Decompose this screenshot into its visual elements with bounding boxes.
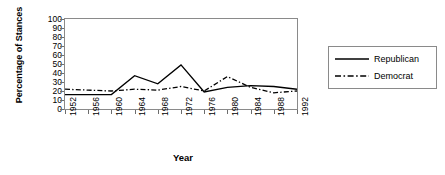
y-axis-tick-labels: 1009080706050403020100 (38, 14, 62, 110)
legend-label: Republican (374, 55, 419, 64)
y-tick-mark (60, 64, 64, 65)
x-axis-title: Year (113, 152, 253, 163)
x-tick-label: 1984 (254, 97, 263, 116)
y-axis-title: Percentage of Stances (14, 0, 24, 115)
x-tick-label: 1960 (115, 97, 124, 116)
plot-lines (65, 19, 297, 109)
x-tick-mark (297, 110, 298, 114)
y-tick-mark (60, 91, 64, 92)
legend-label: Democrat (374, 72, 413, 81)
x-tick-label: 1956 (92, 97, 101, 116)
x-tick-mark (88, 110, 89, 114)
y-tick-mark (60, 55, 64, 56)
x-tick-mark (65, 110, 66, 114)
legend-swatch-dashdot-icon (335, 72, 369, 80)
x-tick-label: 1964 (138, 97, 147, 116)
x-tick-mark (181, 110, 182, 114)
x-tick-mark (135, 110, 136, 114)
y-tick-mark (60, 46, 64, 47)
x-tick-mark (227, 110, 228, 114)
series-line-democrat (65, 77, 297, 93)
line-chart: Percentage of Stances 100908070605040302… (0, 0, 445, 175)
legend-swatch-solid-icon (335, 55, 369, 63)
y-tick-mark (60, 73, 64, 74)
x-tick-mark (274, 110, 275, 114)
y-tick-mark (60, 37, 64, 38)
legend: Republican Democrat (328, 46, 437, 89)
y-tick-mark (60, 100, 64, 101)
y-tick-mark (60, 28, 64, 29)
x-tick-mark (158, 110, 159, 114)
legend-item-republican: Republican (335, 52, 419, 66)
x-tick-label: 1968 (161, 97, 170, 116)
x-tick-label: 1988 (277, 97, 286, 116)
y-tick-mark (60, 109, 64, 110)
x-tick-label: 1952 (69, 97, 78, 116)
x-tick-mark (251, 110, 252, 114)
x-tick-label: 1992 (301, 97, 310, 116)
x-tick-label: 1972 (185, 97, 194, 116)
y-tick-mark (60, 82, 64, 83)
x-tick-label: 1976 (208, 97, 217, 116)
x-tick-label: 1980 (231, 97, 240, 116)
y-tick-mark (60, 19, 64, 20)
x-tick-mark (204, 110, 205, 114)
x-tick-mark (111, 110, 112, 114)
legend-item-democrat: Democrat (335, 69, 413, 83)
